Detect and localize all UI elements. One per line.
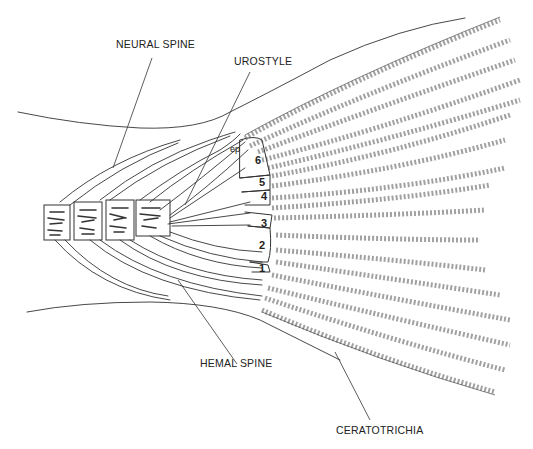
neural-spines <box>60 132 248 215</box>
caudal-fin-diagram: NEURAL SPINE UROSTYLE HEMAL SPINE CERATO… <box>0 0 533 449</box>
body-outline-lower <box>27 302 340 360</box>
label-urostyle: UROSTYLE <box>234 55 292 67</box>
vertebrae <box>44 200 170 240</box>
body-outline-upper <box>18 18 465 128</box>
urostyle <box>168 168 250 226</box>
label-epural: ep <box>230 144 240 154</box>
hypural-4: 4 <box>261 190 267 202</box>
label-hemal-spine: HEMAL SPINE <box>200 357 272 369</box>
hypural-5: 5 <box>259 176 265 188</box>
hemal-spines <box>55 232 262 300</box>
ceratotrichia-leader <box>335 352 370 420</box>
fin-rays <box>245 17 520 395</box>
hypural-2: 2 <box>259 239 265 251</box>
label-ceratotrichia: CERATOTRICHIA <box>336 424 423 436</box>
hypural-6: 6 <box>255 154 261 166</box>
hypural-1: 1 <box>259 262 265 274</box>
label-neural-spine: NEURAL SPINE <box>116 38 195 50</box>
hypural-3: 3 <box>261 217 267 229</box>
urostyle-leader <box>185 72 250 205</box>
